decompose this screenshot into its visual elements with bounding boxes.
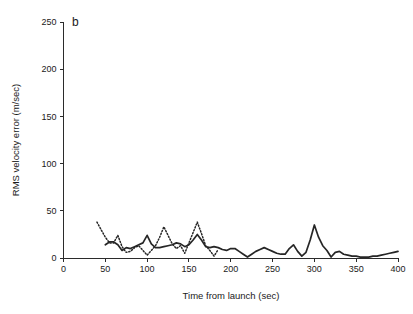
y-tick-label: 0 xyxy=(51,253,56,263)
data-series xyxy=(97,222,398,257)
x-tick-label: 150 xyxy=(181,264,196,274)
x-axis-title: Time from launch (sec) xyxy=(183,290,280,301)
x-tick-label: 250 xyxy=(265,264,280,274)
x-tick-label: 400 xyxy=(390,264,405,274)
x-tick-label: 50 xyxy=(100,264,110,274)
y-tick-label: 150 xyxy=(41,112,56,122)
y-tick-label: 50 xyxy=(46,206,56,216)
y-tick-label: 200 xyxy=(41,64,56,74)
chart-canvas: 050100150200250050100150200250300350400 … xyxy=(0,0,413,314)
x-tick-label: 100 xyxy=(140,264,155,274)
x-tick-label: 0 xyxy=(61,264,66,274)
tick-marks xyxy=(60,22,399,262)
x-tick-label: 300 xyxy=(307,264,322,274)
y-axis-title: RMS velocity error (m/sec) xyxy=(10,84,21,196)
tick-labels: 050100150200250050100150200250300350400 xyxy=(41,17,405,274)
y-tick-label: 100 xyxy=(41,159,56,169)
panel-label: b xyxy=(72,15,79,29)
axes xyxy=(64,22,399,258)
x-tick-label: 200 xyxy=(223,264,238,274)
y-tick-label: 250 xyxy=(41,17,56,27)
x-tick-label: 350 xyxy=(349,264,364,274)
chart-figure: 050100150200250050100150200250300350400 … xyxy=(0,0,413,314)
